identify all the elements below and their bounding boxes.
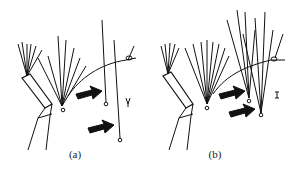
panel-caption-b: (b): [195, 148, 235, 160]
arrow-icon: [88, 120, 114, 133]
arrow-icon: [219, 86, 245, 99]
left-hair-tuft-b: [161, 43, 179, 74]
arrow-icon: [229, 104, 255, 117]
center-hair-tuft-b: [185, 40, 229, 110]
arrow-icon: [76, 86, 102, 99]
panel-b: (b): [147, 0, 295, 181]
panel-a: (a): [0, 0, 148, 181]
center-hair-tuft-a: [38, 36, 86, 112]
panel-caption-a: (a): [55, 148, 95, 160]
